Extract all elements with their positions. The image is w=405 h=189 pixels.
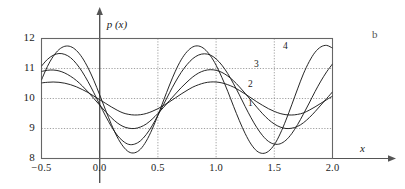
x-tick-label: 0.0 (80, 162, 120, 173)
y-tick-label: 9 (13, 121, 35, 133)
y-tick-label: 11 (13, 61, 35, 73)
y-tick-label: 10 (13, 91, 35, 103)
x-tick-label: 1.0 (196, 162, 236, 173)
figure-panel: 12 11 10 9 8 −0.5 0.0 0.5 1.0 1.5 2.0 p … (0, 0, 405, 189)
panel-letter-label: b (372, 28, 378, 40)
y-axis-title: p (x) (107, 18, 127, 30)
curve-label-2: 2 (248, 79, 253, 89)
data-curves (42, 45, 333, 153)
curve-label-3: 3 (254, 59, 259, 69)
y-tick-label: 12 (13, 31, 35, 43)
gridlines (42, 39, 333, 159)
curve-label-1: 1 (248, 98, 253, 108)
curve-label-4: 4 (283, 41, 288, 51)
x-axis-title: x (360, 142, 365, 154)
x-tick-label: 2.0 (313, 162, 353, 173)
x-tick-label: 1.5 (254, 162, 294, 173)
axis-arrows (97, 7, 397, 162)
x-tick-label: −0.5 (22, 162, 62, 173)
x-tick-label: 0.5 (138, 162, 178, 173)
